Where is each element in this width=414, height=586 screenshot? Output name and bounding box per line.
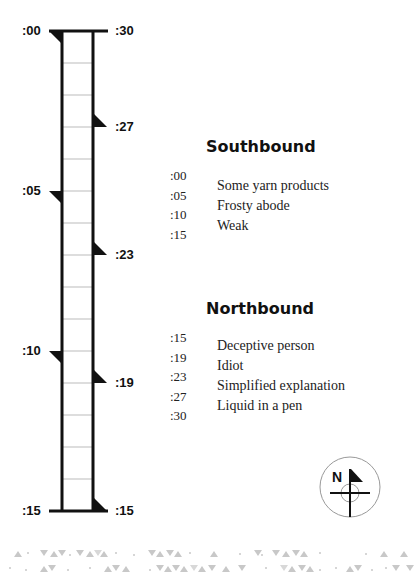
time-ladder bbox=[0, 0, 140, 530]
northbound-time: :15 bbox=[170, 328, 187, 348]
northbound-clue: Simplified explanation bbox=[217, 376, 345, 396]
southbound-clue: Some yarn products bbox=[217, 176, 329, 196]
northbound-clues: Deceptive person Idiot Simplified explan… bbox=[217, 336, 345, 416]
northbound-time: :27 bbox=[170, 387, 187, 407]
left-label-00: :00 bbox=[22, 24, 41, 38]
right-label-19: :19 bbox=[115, 376, 134, 390]
left-label-10: :10 bbox=[22, 344, 41, 358]
left-label-05: :05 bbox=[22, 184, 41, 198]
right-label-27: :27 bbox=[115, 120, 134, 134]
southbound-time: :05 bbox=[170, 186, 187, 206]
northbound-clue: Liquid in a pen bbox=[217, 396, 345, 416]
southbound-time: :15 bbox=[170, 225, 187, 245]
northbound-clue: Idiot bbox=[217, 356, 345, 376]
southbound-clue: Frosty abode bbox=[217, 196, 329, 216]
right-label-30: :30 bbox=[115, 24, 134, 38]
northbound-time: :30 bbox=[170, 406, 187, 426]
southbound-times: :00 :05 :10 :15 bbox=[170, 166, 187, 244]
compass-north-label: N bbox=[332, 469, 342, 485]
northbound-clue: Deceptive person bbox=[217, 336, 345, 356]
right-label-15: :15 bbox=[115, 504, 134, 518]
ladder-rails bbox=[49, 31, 108, 511]
compass-icon: N bbox=[318, 455, 382, 519]
northbound-time: :19 bbox=[170, 348, 187, 368]
northbound-times: :15 :19 :23 :27 :30 bbox=[170, 328, 187, 426]
northbound-title: Northbound bbox=[206, 299, 314, 318]
southbound-clue: Weak bbox=[217, 216, 329, 236]
southbound-title: Southbound bbox=[206, 137, 316, 156]
right-label-23: :23 bbox=[115, 248, 134, 262]
northbound-flags bbox=[94, 114, 107, 511]
decorative-triangle-pattern bbox=[0, 548, 414, 586]
southbound-clues: Some yarn products Frosty abode Weak bbox=[217, 176, 329, 236]
southbound-flags bbox=[49, 31, 62, 364]
northbound-time: :23 bbox=[170, 367, 187, 387]
southbound-time: :00 bbox=[170, 166, 187, 186]
left-label-15: :15 bbox=[22, 504, 41, 518]
ladder-rungs bbox=[63, 63, 93, 479]
southbound-time: :10 bbox=[170, 205, 187, 225]
